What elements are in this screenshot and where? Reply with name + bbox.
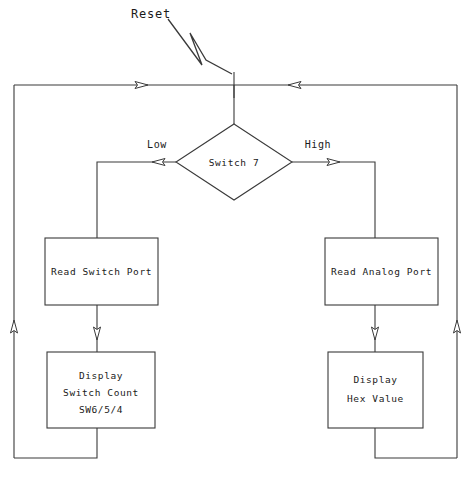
display-switch-count-line2: Switch Count bbox=[63, 387, 139, 398]
display-hex-value-line1: Display bbox=[353, 374, 397, 385]
process-read-analog-port-label: Read Analog Port bbox=[331, 266, 432, 277]
high-branch-path bbox=[292, 162, 375, 238]
process-read-switch-port-label: Read Switch Port bbox=[51, 266, 152, 277]
top-rail-right-arrowhead-icon bbox=[288, 82, 301, 89]
reset-label: Reset bbox=[131, 7, 171, 21]
left-return-path bbox=[14, 428, 97, 458]
right-return-arrowhead-icon bbox=[454, 320, 461, 333]
right-process-to-display-arrowhead-icon bbox=[372, 327, 379, 340]
low-branch-arrowhead-icon bbox=[152, 159, 165, 166]
top-rail-left-arrowhead-icon bbox=[135, 82, 148, 89]
left-process-to-display-arrowhead-icon bbox=[94, 327, 101, 340]
flowchart-diagram: Reset Switch 7 Low Read Switch Port Disp… bbox=[0, 0, 471, 480]
branch-label-low: Low bbox=[147, 139, 167, 150]
lightning-bolt-pointer-icon bbox=[168, 19, 232, 74]
display-hex-value bbox=[328, 352, 423, 428]
display-switch-count-line3: SW6/5/4 bbox=[79, 404, 123, 415]
display-hex-value-line2: Hex Value bbox=[347, 393, 404, 404]
right-return-path bbox=[375, 428, 457, 458]
decision-label: Switch 7 bbox=[209, 157, 260, 168]
left-return-arrowhead-icon bbox=[11, 320, 18, 333]
branch-label-high: High bbox=[305, 139, 331, 150]
display-switch-count-line1: Display bbox=[79, 370, 123, 381]
low-branch-path bbox=[97, 162, 176, 238]
high-branch-arrowhead-icon bbox=[327, 159, 340, 166]
flowchart-canvas: Reset Switch 7 Low Read Switch Port Disp… bbox=[0, 0, 471, 480]
